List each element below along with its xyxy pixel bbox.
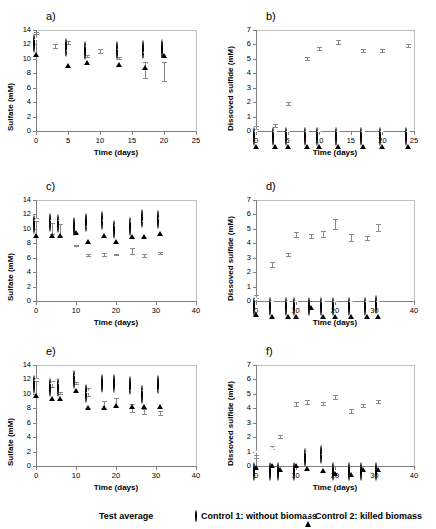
data-point (57, 379, 63, 397)
error-bar-cap (270, 262, 275, 263)
y-tick-label: 12 (8, 375, 31, 383)
x-tick-label: 30 (144, 472, 168, 480)
error-bar-cap (321, 402, 326, 403)
x-tick (76, 302, 77, 305)
x-tick (196, 467, 197, 470)
y-tick (33, 258, 36, 259)
y-tick (33, 117, 36, 118)
error-bar-cap (349, 409, 354, 410)
x-tick-label: 30 (144, 307, 168, 315)
error-bar-cap (305, 57, 310, 58)
error-bar-cap (102, 256, 107, 257)
data-point (348, 455, 354, 473)
panel-e: e)02468101214010203040Time (days)Sulfate… (0, 335, 218, 505)
y-tick (253, 365, 256, 366)
error-bar-cap (286, 256, 291, 257)
y-tick (253, 379, 256, 380)
error-bar-cap (270, 267, 275, 268)
data-point (348, 297, 354, 315)
x-axis-title: Time (days) (36, 148, 196, 157)
y-tick (33, 452, 36, 453)
y-tick-label: 12 (8, 210, 31, 218)
y-tick-label: 7 (228, 196, 251, 204)
open-circle-icon (195, 511, 197, 521)
y-tick (253, 73, 256, 74)
data-point (113, 386, 119, 404)
error-bar-cap (130, 254, 135, 255)
data-point (141, 217, 147, 235)
x-tick-label: 40 (184, 472, 208, 480)
error-bar-cap (34, 32, 39, 33)
x-tick (76, 467, 77, 470)
plot-frame-right (196, 30, 197, 131)
x-tick (116, 302, 117, 305)
legend-item: Test average (95, 511, 153, 521)
error-bar-cap (158, 254, 163, 255)
legend-label: Test average (99, 511, 153, 521)
panel-label: f) (266, 345, 273, 357)
error-bar-cap (333, 395, 338, 396)
x-axis-line (36, 131, 197, 132)
data-point (57, 216, 63, 234)
legend-item: Control 1: without biomass (195, 511, 317, 521)
error-bar-cap (376, 400, 381, 401)
data-point (116, 45, 122, 63)
error-bar-cap (380, 52, 385, 53)
panel-label: c) (46, 180, 55, 192)
data-point (316, 127, 322, 145)
error-bar-cap (305, 404, 310, 405)
data-point (269, 446, 275, 464)
y-tick (33, 365, 36, 366)
data-point (320, 451, 326, 469)
panel-b: b)012345670510152025Time (days)Dissoved … (218, 0, 436, 170)
error-bar-cap (321, 237, 326, 238)
error-bar-cap (278, 435, 283, 436)
data-point (73, 371, 79, 389)
y-tick (253, 102, 256, 103)
data-point (253, 127, 259, 145)
data-point (49, 379, 55, 397)
y-tick (33, 102, 36, 103)
error-bar-cap (349, 413, 354, 414)
error-bar-cap (376, 224, 381, 225)
data-point (33, 35, 39, 53)
x-tick (68, 132, 69, 135)
data-point (253, 448, 259, 466)
x-tick (164, 132, 165, 135)
error-bar (378, 224, 379, 231)
error-bar-cap (349, 241, 354, 242)
y-axis-title: Dissoved sulfide (mM) (226, 46, 235, 131)
x-tick (196, 132, 197, 135)
data-point (379, 127, 385, 145)
plot-frame-top (256, 30, 414, 31)
x-tick (36, 132, 37, 135)
panel-c: c)02468101214010203040Time (days)Sulfate… (0, 170, 218, 340)
x-axis-title: Time (days) (256, 148, 414, 157)
error-bar-cap (102, 253, 107, 254)
error-bar-cap (162, 62, 167, 63)
error-bar-cap (333, 219, 338, 220)
data-point (129, 217, 135, 235)
x-tick-label: 10 (64, 472, 88, 480)
plot-frame-right (196, 365, 197, 466)
error-bar-cap (294, 237, 299, 238)
data-point (101, 388, 107, 406)
error-bar-cap (365, 240, 370, 241)
y-tick-label: 10 (8, 225, 31, 233)
error-bar-cap (142, 414, 147, 415)
y-axis-line (256, 30, 257, 132)
y-tick (33, 408, 36, 409)
y-tick (253, 243, 256, 244)
x-tick (414, 132, 415, 135)
y-tick (253, 229, 256, 230)
x-axis-title: Time (days) (256, 318, 414, 327)
error-bar-cap (286, 105, 291, 106)
plot-frame-top (256, 200, 414, 201)
plot-frame-top (36, 365, 196, 366)
y-tick (253, 272, 256, 273)
data-point (49, 216, 55, 234)
y-tick-label: 8 (8, 69, 31, 77)
y-tick-label: 10 (8, 55, 31, 63)
y-tick (253, 287, 256, 288)
y-tick (253, 408, 256, 409)
